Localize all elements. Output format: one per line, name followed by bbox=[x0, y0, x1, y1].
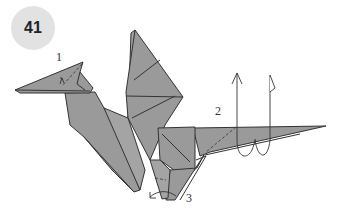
step-label-1: 1 bbox=[56, 50, 62, 65]
front-leg bbox=[150, 160, 170, 199]
origami-diagram bbox=[0, 0, 340, 219]
tail bbox=[193, 126, 326, 156]
head bbox=[15, 62, 93, 93]
step-label-2: 2 bbox=[215, 104, 221, 119]
step-label-3: 3 bbox=[186, 191, 192, 206]
